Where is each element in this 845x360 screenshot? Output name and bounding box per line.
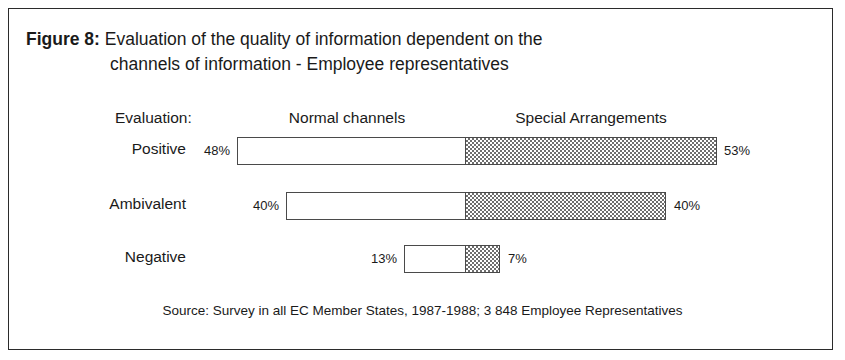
bar-left-negative bbox=[404, 245, 465, 273]
value-right-ambivalent: 40% bbox=[674, 198, 700, 213]
value-left-positive: 48% bbox=[196, 143, 230, 158]
bar-left-ambivalent bbox=[286, 192, 465, 220]
bar-right-positive bbox=[465, 137, 717, 165]
chart-column-headers: Evaluation: Normal channels Special Arra… bbox=[0, 109, 845, 129]
chart-row-positive: Positive 48% 53% bbox=[0, 133, 845, 169]
value-right-negative: 7% bbox=[508, 251, 527, 266]
source-note: Source: Survey in all EC Member States, … bbox=[0, 303, 845, 318]
value-left-ambivalent: 40% bbox=[245, 198, 279, 213]
row-label-negative: Negative bbox=[0, 248, 186, 266]
header-special-arrangements: Special Arrangements bbox=[515, 109, 667, 127]
bar-left-positive bbox=[237, 137, 465, 165]
row-label-ambivalent: Ambivalent bbox=[0, 195, 186, 213]
figure-container: Figure 8: Evaluation of the quality of i… bbox=[0, 0, 845, 360]
chart-row-negative: Negative 13% 7% bbox=[0, 241, 845, 277]
chart-row-ambivalent: Ambivalent 40% 40% bbox=[0, 188, 845, 224]
bar-right-ambivalent bbox=[465, 192, 666, 220]
row-label-positive: Positive bbox=[0, 140, 186, 158]
value-right-positive: 53% bbox=[724, 143, 750, 158]
bar-right-negative bbox=[465, 245, 500, 273]
value-left-negative: 13% bbox=[363, 251, 397, 266]
header-normal-channels: Normal channels bbox=[289, 109, 405, 127]
header-evaluation: Evaluation: bbox=[115, 109, 192, 127]
